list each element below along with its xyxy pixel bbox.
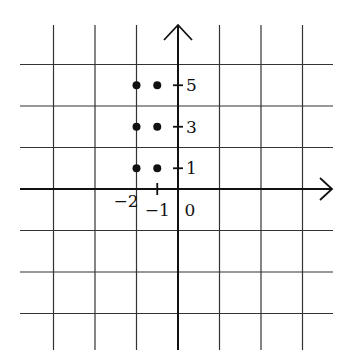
data-point xyxy=(153,81,161,89)
x-tick-label: −2 xyxy=(113,191,138,211)
axis-ticks xyxy=(157,85,183,195)
y-tick-label: 1 xyxy=(186,158,197,178)
grid-lines xyxy=(20,25,333,350)
y-tick-label: 3 xyxy=(186,117,197,137)
y-tick-label: 5 xyxy=(186,75,197,95)
data-point xyxy=(153,164,161,172)
data-point xyxy=(153,123,161,131)
coordinate-plane: −2−10135 xyxy=(0,0,347,364)
data-point xyxy=(133,81,141,89)
axes xyxy=(20,25,332,350)
data-point xyxy=(133,164,141,172)
data-point xyxy=(133,123,141,131)
x-tick-label: −1 xyxy=(145,200,170,220)
x-tick-label: 0 xyxy=(185,200,196,220)
